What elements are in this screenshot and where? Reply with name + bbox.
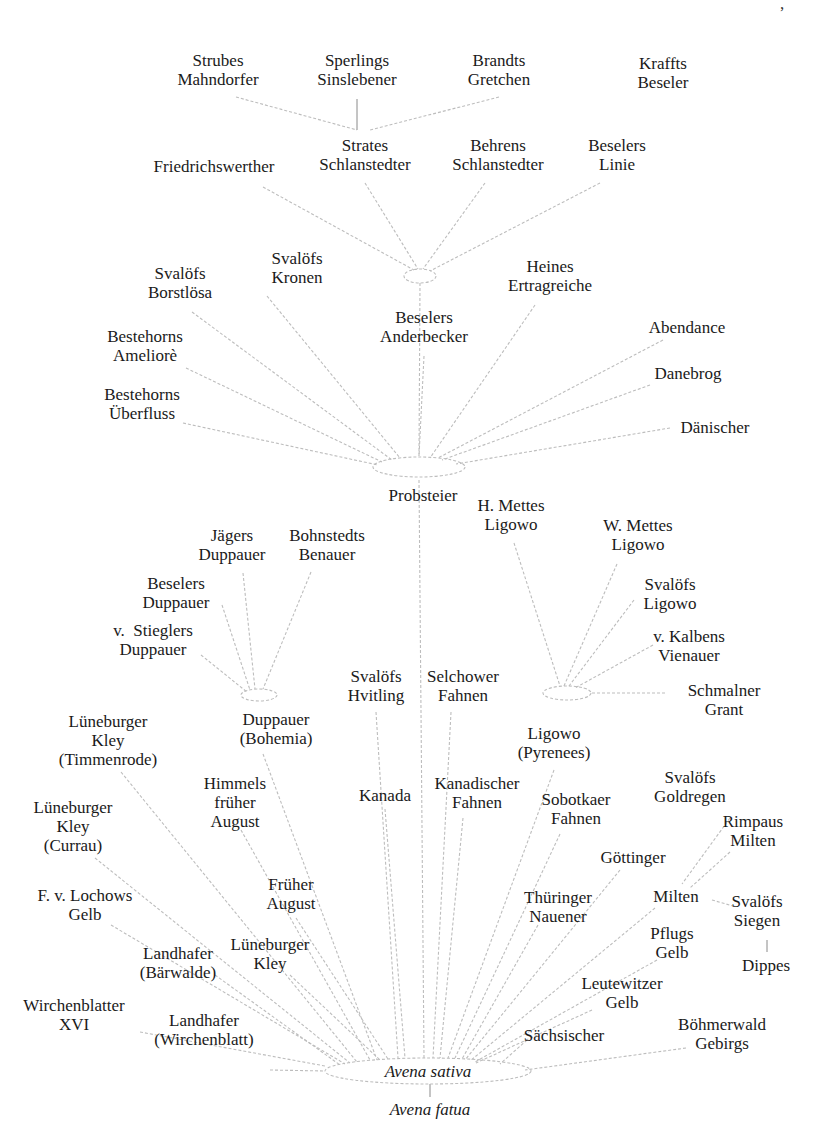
variety-node-beselers-linie: Beselers Linie — [588, 136, 646, 174]
lineage-edge — [712, 900, 733, 906]
variety-node-leutewitzer: Leutewitzer Gelb — [581, 974, 662, 1012]
lineage-edge — [365, 183, 418, 269]
variety-node-sobotkaer: Sobotkaer Fahnen — [542, 790, 611, 828]
lineage-edge — [243, 573, 255, 689]
lineage-edge — [423, 183, 485, 269]
variety-node-v-stieglers: v. Stieglers Duppauer — [113, 621, 193, 659]
variety-node-bohmerwald: Böhmerwald Gebirgs — [678, 1015, 766, 1053]
variety-node-rimpaus: Rimpaus Milten — [723, 812, 783, 850]
lineage-edge — [525, 1048, 686, 1070]
variety-node-friedrichswerther: Friedrichswerther — [154, 157, 275, 176]
lineage-edge — [201, 655, 247, 692]
variety-node-danischer: Dänischer — [681, 418, 750, 437]
lineage-edge — [290, 975, 380, 1060]
variety-node-svalofs-goldregen: Svalöfs Goldregen — [654, 768, 726, 806]
lineage-edge — [456, 428, 670, 464]
lineage-edge — [270, 1070, 325, 1071]
variety-node-sachsischer: Sächsischer — [524, 1026, 604, 1045]
lineage-edge — [263, 572, 311, 689]
hub-ligowo-ellipse — [543, 686, 591, 700]
variety-node-beselers-duppauer: Beselers Duppauer — [142, 574, 209, 612]
lineage-edge — [433, 712, 451, 1058]
variety-node-svalofs-hvitling: Svalöfs Hvitling — [348, 667, 405, 705]
hub-duppauer-ellipse — [241, 689, 277, 701]
lineage-edge — [564, 564, 617, 686]
variety-node-duppauer-bohemia: Duppauer (Bohemia) — [240, 710, 313, 748]
variety-node-svalofs-borstlosa: Svalöfs Borstlösa — [148, 264, 212, 302]
variety-node-avena-sativa: Avena sativa — [385, 1062, 471, 1081]
variety-node-svalofs-kronen: Svalöfs Kronen — [272, 249, 323, 287]
lineage-edge — [569, 600, 634, 686]
lineage-edge — [222, 605, 250, 690]
hub-probsteier-ellipse — [373, 457, 465, 477]
genealogy-edges — [0, 0, 828, 1143]
lineage-edge — [186, 368, 382, 462]
variety-node-ligowo-pyrenees: Ligowo (Pyrenees) — [518, 724, 591, 762]
lineage-edge — [690, 852, 730, 888]
variety-node-svalofs-siegen: Svalöfs Siegen — [732, 892, 783, 930]
variety-node-strubes: Strubes Mahndorfer — [177, 51, 258, 89]
variety-node-himmels: Himmels früher August — [204, 774, 266, 831]
lineage-edge — [575, 645, 653, 688]
variety-node-luneburger-kley: Lüneburger Kley — [231, 935, 310, 973]
variety-node-behrens: Behrens Schlanstedter — [452, 136, 544, 174]
variety-node-strates: Strates Schlanstedter — [319, 136, 411, 174]
variety-node-luneburger-timmenrode: Lüneburger Kley (Timmenrode) — [59, 712, 158, 769]
variety-node-v-kalbens: v. Kalbens Vienauer — [653, 627, 725, 665]
variety-node-schmalner: Schmalner Grant — [688, 681, 761, 719]
variety-node-bohnstedts: Bohnstedts Benauer — [289, 526, 365, 564]
variety-node-beselers-anderbecker: Beselers Anderbecker — [380, 308, 468, 346]
variety-node-heines: Heines Ertragreiche — [508, 257, 592, 295]
page-corner-mark: , — [780, 0, 784, 14]
variety-node-kanadischer: Kanadischer Fahnen — [435, 774, 520, 812]
variety-node-brandts: Brandts Gretchen — [468, 51, 530, 89]
lineage-edge — [419, 480, 424, 1058]
lineage-edge — [296, 918, 388, 1059]
lineage-edge — [192, 312, 392, 460]
lineage-edge — [514, 543, 560, 686]
lineage-edge — [183, 423, 378, 465]
variety-node-kraffts: Kraffts Beseler — [638, 54, 689, 92]
variety-node-milten: Milten — [653, 887, 698, 906]
variety-node-w-mettes: W. Mettes Ligowo — [603, 516, 672, 554]
variety-node-jagers: Jägers Duppauer — [198, 526, 265, 564]
lineage-edge — [438, 340, 663, 458]
variety-node-f-v-lochows: F. v. Lochows Gelb — [38, 886, 133, 924]
variety-node-bestehorns-uberfluss: Bestehorns Überfluss — [104, 385, 180, 423]
variety-node-gottinger: Göttinger — [600, 848, 665, 867]
variety-node-landhafer-wirchenblatt: Landhafer (Wirchenblatt) — [154, 1011, 253, 1049]
variety-node-bestehorns-ameliore: Bestehorns Ameliorè — [107, 327, 183, 365]
variety-node-wirchenblatter: Wirchenblatter XVI — [23, 996, 124, 1034]
variety-node-thuringer: Thüringer Nauener — [524, 888, 592, 926]
variety-node-h-mettes: H. Mettes Ligowo — [477, 496, 544, 534]
variety-node-landhafer-barwalde: Landhafer (Bärwalde) — [140, 944, 216, 982]
variety-node-sperlings: Sperlings Sinslebener — [317, 51, 396, 89]
variety-node-probsteier: Probsteier — [389, 486, 458, 505]
variety-node-fruher-august: Früher August — [266, 875, 315, 913]
variety-node-luneburger-currau: Lüneburger Kley (Currau) — [34, 798, 113, 855]
variety-node-pflugs: Pflugs Gelb — [650, 924, 693, 962]
variety-node-avena-fatua: Avena fatua — [390, 1100, 471, 1119]
lineage-edge — [455, 834, 560, 1058]
lineage-edge — [370, 97, 499, 130]
variety-node-dippes: Dippes — [742, 956, 790, 975]
variety-node-svalofs-ligowo: Svalöfs Ligowo — [644, 575, 697, 613]
variety-node-abendance: Abendance — [649, 318, 725, 337]
lineage-edge — [376, 712, 398, 1058]
hub-top-ellipse — [404, 269, 436, 283]
variety-node-danebrog: Danebrog — [654, 364, 721, 383]
lineage-edge — [236, 97, 357, 130]
variety-node-selchower: Selchower Fahnen — [427, 667, 499, 705]
variety-node-kanada: Kanada — [359, 786, 411, 805]
lineage-edge — [385, 809, 405, 1058]
